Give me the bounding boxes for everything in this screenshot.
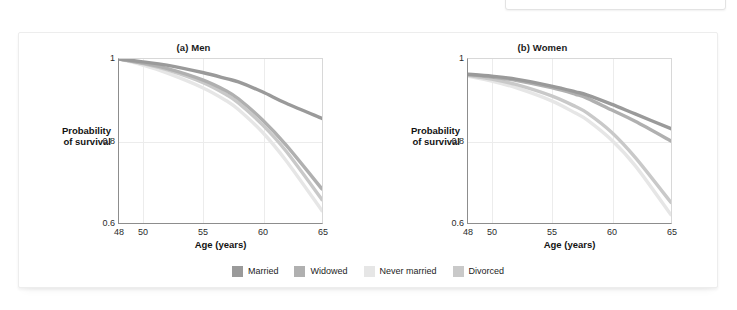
y-tick-08-men: 0.8 xyxy=(81,136,115,146)
survival-curves xyxy=(119,59,322,223)
x-tick-60-women: 60 xyxy=(597,227,627,237)
legend-item[interactable]: Widowed xyxy=(294,266,347,277)
plot-area-women xyxy=(467,58,672,224)
legend-item[interactable]: Married xyxy=(232,266,279,277)
y-axis-label-line1: Probability xyxy=(39,125,111,136)
chart-panel-men: (a) Men Probability of survival 1 0.8 0.… xyxy=(19,33,368,255)
curve-never-married xyxy=(468,76,671,215)
x-tick-65-women: 65 xyxy=(657,227,687,237)
chart-panel-women: (b) Women Probability of survival 1 0.8 … xyxy=(368,33,717,255)
legend-item[interactable]: Divorced xyxy=(453,266,505,277)
figure-card: (a) Men Probability of survival 1 0.8 0.… xyxy=(18,32,718,288)
curve-divorced xyxy=(119,59,322,200)
chart-title-women: (b) Women xyxy=(368,42,717,53)
chart-legend: MarriedWidowedNever marriedDivorced xyxy=(19,255,717,287)
legend-label: Divorced xyxy=(469,266,505,276)
survival-curves xyxy=(468,59,671,223)
legend-label: Widowed xyxy=(310,266,347,276)
chart-title-men: (a) Men xyxy=(19,42,368,53)
x-axis-label-men: Age (years) xyxy=(118,239,323,250)
y-axis-label-line1: Probability xyxy=(388,125,460,136)
citation-box: Wade, 1995) xyxy=(505,0,726,10)
curve-never-married xyxy=(119,59,322,211)
x-tick-50-women: 50 xyxy=(477,227,507,237)
curve-widowed xyxy=(468,75,671,141)
x-tick-55-women: 55 xyxy=(537,227,567,237)
y-tick-1-women: 1 xyxy=(430,53,464,63)
legend-swatch-icon xyxy=(232,266,243,277)
x-tick-65-men: 65 xyxy=(308,227,338,237)
x-tick-50-men: 50 xyxy=(128,227,158,237)
legend-label: Never married xyxy=(380,266,437,276)
curve-divorced xyxy=(468,75,671,202)
legend-swatch-icon xyxy=(364,266,375,277)
y-tick-08-women: 0.8 xyxy=(430,136,464,146)
plot-area-men xyxy=(118,58,323,224)
legend-swatch-icon xyxy=(453,266,464,277)
legend-swatch-icon xyxy=(294,266,305,277)
legend-item[interactable]: Never married xyxy=(364,266,437,277)
x-tick-55-men: 55 xyxy=(188,227,218,237)
y-tick-1-men: 1 xyxy=(81,53,115,63)
x-axis-label-women: Age (years) xyxy=(467,239,672,250)
x-tick-60-men: 60 xyxy=(248,227,278,237)
legend-label: Married xyxy=(248,266,279,276)
